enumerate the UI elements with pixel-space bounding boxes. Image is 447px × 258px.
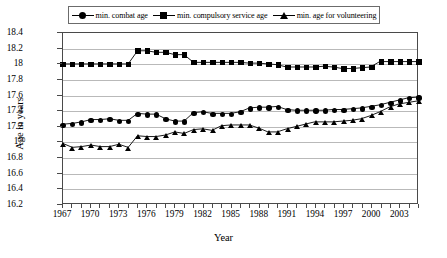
- x-tick-mark: [268, 204, 269, 208]
- x-tick-mark: [249, 204, 250, 208]
- x-tick-mark: [221, 204, 222, 208]
- x-tick-mark: [231, 204, 232, 208]
- y-tick-mark: [57, 79, 62, 80]
- data-point: [248, 61, 253, 66]
- y-tick-mark: [57, 173, 62, 174]
- data-point: [388, 105, 394, 110]
- data-point: [144, 135, 150, 140]
- y-tick-mark: [57, 157, 62, 158]
- data-point: [126, 62, 131, 67]
- data-point: [172, 130, 178, 135]
- data-point: [359, 117, 365, 122]
- data-point: [182, 119, 187, 124]
- data-point: [116, 142, 122, 147]
- x-tick-mark: [118, 204, 119, 208]
- data-point: [332, 65, 337, 70]
- y-tick-label: 17.6: [7, 90, 23, 100]
- data-point: [378, 110, 384, 115]
- data-point: [275, 130, 281, 135]
- y-tick-mark: [57, 63, 62, 64]
- data-point: [88, 62, 93, 67]
- x-tick-mark: [146, 204, 147, 208]
- data-point: [304, 65, 309, 70]
- x-tick-mark: [343, 204, 344, 208]
- data-point: [313, 108, 318, 113]
- data-point: [285, 65, 290, 70]
- y-tick-mark: [57, 126, 62, 127]
- x-tick-mark: [90, 204, 91, 208]
- data-point: [228, 123, 234, 128]
- x-tick-mark: [287, 204, 288, 208]
- x-tick-mark: [409, 204, 410, 208]
- data-point: [238, 110, 243, 115]
- data-point: [135, 48, 140, 53]
- x-tick-mark: [174, 204, 175, 208]
- y-tick-mark: [57, 141, 62, 142]
- data-point: [79, 120, 84, 125]
- data-point: [229, 60, 234, 65]
- x-tick-mark: [71, 204, 72, 208]
- x-tick-mark: [362, 204, 363, 208]
- data-point: [126, 119, 131, 124]
- x-tick-mark: [296, 204, 297, 208]
- x-tick-label: 1967: [53, 209, 72, 219]
- data-point: [210, 128, 216, 133]
- legend-entry: min. age for volunteering: [273, 10, 377, 20]
- data-point: [276, 105, 281, 110]
- data-point: [173, 52, 178, 57]
- data-point: [379, 103, 384, 108]
- data-point: [70, 122, 75, 127]
- data-point: [303, 122, 309, 127]
- data-point: [117, 119, 122, 124]
- y-tick-label: 16.8: [7, 152, 23, 162]
- data-point: [351, 107, 356, 112]
- data-point: [248, 106, 253, 111]
- data-point: [304, 108, 309, 113]
- chart-figure: min. combat agemin. compulsory service a…: [0, 0, 447, 258]
- y-tick-label: 17: [14, 136, 23, 146]
- data-point: [98, 118, 103, 123]
- data-point: [351, 66, 356, 71]
- data-point: [369, 65, 374, 70]
- data-point: [219, 124, 225, 129]
- x-tick-label: 1979: [165, 209, 184, 219]
- legend-entry: min. compulsory service age: [153, 10, 267, 20]
- data-point: [256, 126, 262, 131]
- legend-label: min. combat age: [96, 11, 148, 20]
- x-tick-label: 1976: [137, 209, 156, 219]
- data-point: [173, 119, 178, 124]
- data-point: [135, 112, 140, 117]
- x-tick-mark: [381, 204, 382, 208]
- y-tick-mark: [57, 95, 62, 96]
- data-point: [97, 145, 103, 150]
- data-point: [341, 66, 346, 71]
- data-point: [79, 62, 84, 67]
- data-point: [70, 62, 75, 67]
- data-point: [181, 131, 187, 136]
- data-point: [107, 62, 112, 67]
- x-tick-mark: [418, 204, 419, 208]
- data-point: [163, 117, 168, 122]
- data-point: [88, 118, 93, 123]
- data-point: [125, 146, 131, 151]
- y-tick-mark: [57, 188, 62, 189]
- x-tick-label: 1970: [81, 209, 100, 219]
- x-tick-label: 1982: [193, 209, 212, 219]
- data-point: [276, 62, 281, 67]
- x-tick-mark: [390, 204, 391, 208]
- data-point: [135, 134, 141, 139]
- data-point: [210, 112, 215, 117]
- x-tick-label: 2000: [362, 209, 381, 219]
- x-tick-mark: [165, 204, 166, 208]
- x-tick-mark: [371, 204, 372, 208]
- data-point: [69, 146, 75, 151]
- data-point: [323, 64, 328, 69]
- x-tick-mark: [399, 204, 400, 208]
- x-tick-mark: [352, 204, 353, 208]
- data-point: [220, 112, 225, 117]
- data-point: [379, 59, 384, 64]
- data-point: [397, 102, 403, 107]
- x-tick-mark: [334, 204, 335, 208]
- x-tick-mark: [62, 204, 63, 208]
- x-tick-label: 1994: [306, 209, 325, 219]
